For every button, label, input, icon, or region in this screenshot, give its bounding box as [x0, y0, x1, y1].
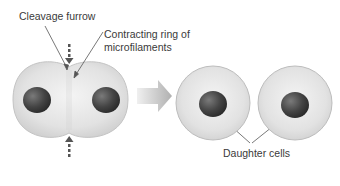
daughter-cells-label: Daughter cells — [223, 147, 290, 159]
dividing-cell — [13, 62, 128, 138]
daughter-cells — [176, 66, 332, 140]
contracting-ring-label-line2: microfilaments — [104, 41, 172, 53]
right-nucleus — [92, 87, 120, 113]
cleavage-furrow-label: Cleavage furrow — [19, 10, 95, 22]
transition-arrow — [137, 80, 172, 112]
left-nucleus — [23, 87, 51, 113]
contracting-ring-label-line1: Contracting ring of — [104, 28, 190, 40]
